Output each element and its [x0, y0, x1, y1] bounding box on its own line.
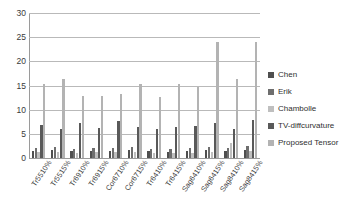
bar [216, 42, 218, 158]
bar [178, 84, 180, 158]
bar-group [145, 13, 164, 158]
y-axis-tick-25: 25 [2, 33, 26, 42]
y-axis-tick-labels: 302520151050 [0, 13, 26, 159]
bar-group [48, 13, 67, 158]
legend-item[interactable]: Erik [268, 83, 354, 100]
bar-group [222, 13, 241, 158]
legend-item-label: Proposed Tensor [278, 139, 338, 147]
bar [43, 84, 45, 158]
legend-item[interactable]: TV-diffcurvature [268, 117, 354, 134]
bar [197, 87, 199, 158]
bar-group [183, 13, 202, 158]
legend-swatch-icon [268, 123, 274, 129]
bar-group [29, 13, 48, 158]
legend-item-label: Chen [278, 71, 297, 79]
legend-item[interactable]: Proposed Tensor [268, 134, 354, 151]
legend-item-label: Chambolle [278, 105, 316, 113]
chart-legend: ChenErikChambolleTV-diffcurvaturePropose… [268, 66, 354, 151]
y-axis-tick-0: 0 [2, 154, 26, 163]
bar [120, 94, 122, 158]
y-axis-tick-10: 10 [2, 105, 26, 114]
legend-item-label: Erik [278, 88, 292, 96]
legend-swatch-icon [268, 106, 274, 112]
bar [82, 96, 84, 158]
y-axis-tick-15: 15 [2, 81, 26, 90]
bar-group [202, 13, 221, 158]
bar [255, 42, 257, 158]
bar-group [68, 13, 87, 158]
legend-swatch-icon [268, 72, 274, 78]
y-axis-tick-5: 5 [2, 130, 26, 139]
bar-chart: 302520151050 Tr5510%Tr5515%Tr6910%Tr6915… [0, 0, 355, 219]
y-axis-tick-30: 30 [2, 9, 26, 18]
plot-area [29, 13, 260, 158]
bar-group [125, 13, 144, 158]
legend-item[interactable]: Chambolle [268, 100, 354, 117]
bar [62, 79, 64, 158]
bar-group [241, 13, 260, 158]
bar [139, 84, 141, 158]
bar-groups [29, 13, 260, 158]
bar-group [106, 13, 125, 158]
y-axis-tick-20: 20 [2, 57, 26, 66]
bar-group [164, 13, 183, 158]
bar [101, 96, 103, 158]
bar [236, 79, 238, 158]
legend-item[interactable]: Chen [268, 66, 354, 83]
x-axis-tick-labels: Tr5510%Tr5515%Tr6910%Tr6915%Cor6710%Cor6… [29, 159, 260, 219]
legend-swatch-icon [268, 89, 274, 95]
legend-swatch-icon [268, 140, 274, 146]
bar [159, 97, 161, 158]
bar-group [87, 13, 106, 158]
legend-item-label: TV-diffcurvature [278, 122, 334, 130]
